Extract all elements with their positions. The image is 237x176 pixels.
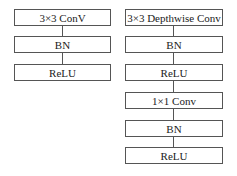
bn-box: BN [14,36,111,53]
block-label: ReLU [49,67,76,79]
block-label: BN [55,39,70,51]
relu-box: ReLU [125,147,223,164]
depthwise-conv-box: 3×3 Depthwise Conv [125,9,223,26]
block-label: ReLU [161,150,188,162]
bn-box: BN [125,120,223,137]
block-label: ReLU [161,67,188,79]
relu-box: ReLU [125,64,223,81]
pointwise-conv-box: 1×1 Conv [125,92,223,109]
block-label: BN [166,123,181,135]
block-label: 3×3 Depthwise Conv [127,12,221,24]
bn-box: BN [125,36,223,53]
relu-box: ReLU [14,64,111,81]
block-label: BN [166,39,181,51]
block-label: 3×3 ConV [39,12,85,24]
block-label: 1×1 Conv [152,95,196,107]
conv3x3-box: 3×3 ConV [14,9,111,26]
